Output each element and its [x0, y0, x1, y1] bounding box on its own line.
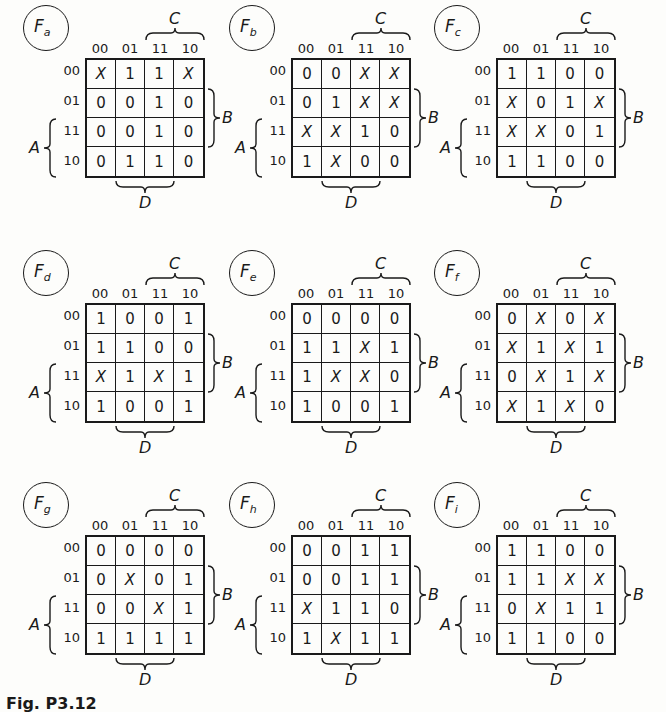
row-label: 00: [262, 540, 286, 555]
kmap-cell: 1: [116, 363, 145, 392]
kmap-grid: 110011XX0X111100: [496, 535, 616, 655]
function-name: Fe: [240, 261, 257, 281]
kmap-cell: 0: [322, 566, 351, 595]
column-label: 11: [145, 41, 175, 56]
kmap-cell: X: [556, 334, 585, 363]
kmap-cell: 1: [174, 363, 203, 392]
column-label: 11: [556, 286, 586, 301]
kmap-cell: 0: [322, 60, 351, 89]
variable-c-label: C: [169, 9, 180, 28]
kmap-cell: 1: [145, 118, 174, 147]
kmap-cell: 0: [556, 624, 585, 653]
kmap-cell: X: [585, 363, 614, 392]
kmap-grid: 00110011X1101X11: [291, 535, 411, 655]
kmap-cell: 1: [351, 595, 380, 624]
kmap-cell: 1: [498, 60, 527, 89]
column-label: 10: [381, 518, 411, 533]
kmap-cell: X: [145, 363, 174, 392]
c-brace-icon: [145, 272, 205, 286]
kmap-cell: 1: [498, 624, 527, 653]
row-label: 10: [56, 630, 80, 645]
variable-a-label: A: [440, 383, 451, 402]
row-label: 00: [467, 540, 491, 555]
function-name: Fh: [240, 493, 257, 513]
function-subscript: g: [44, 503, 51, 516]
function-subscript: a: [44, 26, 51, 39]
column-label: 01: [526, 518, 556, 533]
column-label: 10: [586, 518, 616, 533]
variable-d-label: D: [345, 438, 357, 457]
variable-c-label: C: [375, 9, 386, 28]
kmap-cell: 0: [87, 537, 116, 566]
kmap-cell: 1: [293, 334, 322, 363]
kmap-cell: 0: [585, 624, 614, 653]
kmap-grid: 10011100X1X11001: [85, 303, 205, 423]
kmap-cell: 0: [293, 537, 322, 566]
b-brace-icon: [413, 88, 427, 148]
row-label: 11: [56, 123, 80, 138]
kmap-cell: 0: [145, 334, 174, 363]
kmap-cell: 0: [87, 566, 116, 595]
function-name: Fi: [445, 493, 458, 513]
kmap-fb: Fb000111100001111000XX01XXXX101X00CBAD: [227, 5, 449, 220]
row-label: 11: [467, 600, 491, 615]
kmap-cell: 1: [527, 334, 556, 363]
function-subscript: h: [250, 503, 257, 516]
row-label: 10: [262, 630, 286, 645]
kmap-cell: 0: [351, 305, 380, 334]
row-label: 10: [56, 153, 80, 168]
variable-d-label: D: [139, 438, 151, 457]
kmap-cell: 1: [293, 363, 322, 392]
kmap-cell: 0: [116, 537, 145, 566]
function-label-circle: Fi: [434, 482, 480, 528]
kmap-cell: X: [87, 363, 116, 392]
column-label: 11: [145, 518, 175, 533]
row-label: 01: [56, 93, 80, 108]
b-brace-icon: [618, 565, 632, 625]
kmap-cell: X: [293, 595, 322, 624]
kmap-cell: 1: [174, 392, 203, 421]
row-label: 11: [56, 368, 80, 383]
kmap-cell: 0: [585, 537, 614, 566]
variable-a-label: A: [29, 383, 40, 402]
variable-c-label: C: [375, 254, 386, 273]
row-label: 11: [467, 368, 491, 383]
function-letter: F: [445, 493, 455, 513]
variable-b-label: B: [633, 353, 644, 372]
c-brace-icon: [556, 504, 616, 518]
row-label: 10: [262, 398, 286, 413]
variable-c-label: C: [580, 254, 591, 273]
kmap-cell: 0: [380, 363, 409, 392]
kmap-cell: X: [585, 566, 614, 595]
row-label: 10: [467, 398, 491, 413]
kmap-cell: 1: [116, 60, 145, 89]
kmap-cell: 1: [556, 595, 585, 624]
variable-d-label: D: [139, 670, 151, 689]
variable-a-label: A: [440, 615, 451, 634]
kmap-cell: X: [293, 118, 322, 147]
column-label: 00: [291, 518, 321, 533]
kmap-cell: X: [556, 392, 585, 421]
function-label-circle: Fe: [229, 250, 275, 296]
a-brace-icon: [249, 595, 263, 655]
kmap-cell: 1: [585, 595, 614, 624]
column-label: 01: [321, 286, 351, 301]
kmap-cell: 1: [527, 566, 556, 595]
d-brace-icon: [526, 657, 586, 671]
d-brace-icon: [321, 657, 381, 671]
function-label-circle: Fd: [23, 250, 69, 296]
kmap-cell: 0: [293, 566, 322, 595]
kmap-grid: 1100X01XXX011100: [496, 58, 616, 178]
kmap-cell: 1: [351, 566, 380, 595]
kmap-cell: 0: [87, 595, 116, 624]
kmap-cell: X: [498, 392, 527, 421]
column-label: 00: [291, 286, 321, 301]
row-label: 00: [467, 63, 491, 78]
variable-c-label: C: [580, 486, 591, 505]
column-label: 00: [291, 41, 321, 56]
kmap-cell: 0: [351, 147, 380, 176]
column-label: 10: [381, 41, 411, 56]
column-label: 00: [85, 41, 115, 56]
column-label: 00: [496, 41, 526, 56]
kmap-grid: 00XX01XXXX101X00: [291, 58, 411, 178]
